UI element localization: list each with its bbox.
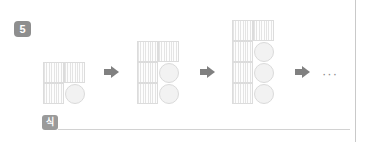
square-tile bbox=[137, 41, 158, 62]
grid-row bbox=[43, 83, 85, 104]
next-step-arrow-icon bbox=[295, 66, 310, 78]
grid-row bbox=[137, 62, 179, 83]
problem-number-badge: 5 bbox=[14, 21, 31, 37]
grid-row bbox=[232, 41, 274, 62]
circle-shape bbox=[254, 63, 274, 83]
square-tile bbox=[137, 83, 158, 104]
answer-input-line[interactable] bbox=[58, 129, 350, 130]
pattern-sequence: ··· bbox=[40, 14, 355, 104]
square-tile bbox=[158, 41, 179, 62]
circle-shape bbox=[159, 63, 179, 83]
circle-tile bbox=[253, 62, 274, 83]
page-edge-rule bbox=[355, 0, 356, 142]
next-step-arrow-icon bbox=[104, 66, 119, 78]
circle-tile bbox=[253, 41, 274, 62]
grid-row bbox=[232, 62, 274, 83]
worksheet-page: 5 ··· 식 bbox=[0, 0, 365, 142]
pattern-step-2 bbox=[137, 41, 179, 104]
circle-shape bbox=[65, 84, 85, 104]
square-tile bbox=[232, 20, 253, 41]
grid-row bbox=[232, 83, 274, 104]
square-tile bbox=[232, 62, 253, 83]
pattern-ellipsis: ··· bbox=[322, 68, 338, 80]
pattern-step-1 bbox=[43, 62, 85, 104]
grid-row bbox=[137, 83, 179, 104]
square-tile bbox=[43, 62, 64, 83]
grid-row bbox=[43, 62, 85, 83]
circle-tile bbox=[158, 62, 179, 83]
circle-tile bbox=[158, 83, 179, 104]
circle-shape bbox=[159, 84, 179, 104]
pattern-step-3 bbox=[232, 20, 274, 104]
answer-label-badge: 식 bbox=[42, 115, 58, 130]
step-grid bbox=[232, 20, 274, 104]
square-tile bbox=[137, 62, 158, 83]
next-step-arrow-icon bbox=[200, 66, 215, 78]
circle-tile bbox=[64, 83, 85, 104]
square-tile bbox=[253, 20, 274, 41]
square-tile bbox=[232, 41, 253, 62]
grid-row bbox=[232, 20, 274, 41]
step-grid bbox=[137, 41, 179, 104]
answer-area: 식 bbox=[42, 115, 350, 135]
circle-shape bbox=[254, 84, 274, 104]
square-tile bbox=[64, 62, 85, 83]
square-tile bbox=[232, 83, 253, 104]
circle-tile bbox=[253, 83, 274, 104]
grid-row bbox=[137, 41, 179, 62]
square-tile bbox=[43, 83, 64, 104]
circle-shape bbox=[254, 42, 274, 62]
step-grid bbox=[43, 62, 85, 104]
